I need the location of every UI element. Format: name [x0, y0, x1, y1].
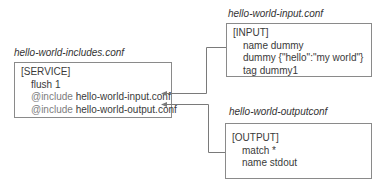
connector-lines: [0, 0, 386, 185]
output-connector: [166, 105, 225, 153]
arrowhead-icon: [161, 91, 167, 96]
input-connector: [166, 48, 226, 94]
arrowhead-icon: [161, 102, 167, 107]
